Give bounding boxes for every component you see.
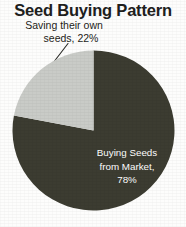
pie-svg [12, 50, 175, 211]
chart-title: Seed Buying Pattern [0, 1, 186, 20]
slice-callout-label-saving-seeds: Saving their own seeds, 22% [3, 19, 125, 44]
callout-line-2: seeds, 22% [17, 32, 125, 45]
callout-line-1: Saving their own [25, 19, 103, 31]
pie-chart-figure: Seed Buying Pattern Saving their own see… [0, 0, 186, 227]
pie-graphic [12, 50, 175, 211]
